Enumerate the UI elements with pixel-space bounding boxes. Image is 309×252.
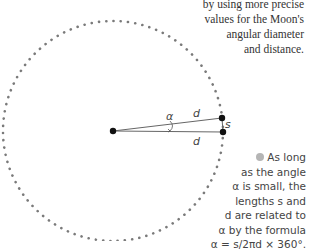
note-line: As long — [267, 151, 306, 163]
bullet-icon — [256, 153, 264, 161]
formula-note: As long as the angle α is small, the len… — [200, 150, 306, 252]
center-point — [110, 128, 116, 134]
s-label: s — [225, 118, 231, 131]
caption-line: angular diameter — [114, 27, 304, 42]
note-line: as the angle — [200, 165, 306, 180]
note-line: lengths s and — [200, 194, 306, 209]
caption-line: by using more precise — [114, 0, 304, 12]
alpha-label: α — [166, 110, 174, 123]
angle-arrow-icon — [168, 129, 170, 132]
note-line: d are related to — [200, 208, 306, 223]
caption-line: and distance. — [114, 42, 304, 57]
d-top-label: d — [193, 107, 201, 120]
formula-line: α = s/2πd × 360°. — [200, 237, 306, 252]
d-bottom-label: d — [193, 135, 201, 148]
caption-line: values for the Moon's — [114, 12, 304, 27]
caption-top: by using more precise values for the Moo… — [114, 0, 304, 57]
note-line: α is small, the — [200, 179, 306, 194]
note-line: α by the formula — [200, 223, 306, 238]
